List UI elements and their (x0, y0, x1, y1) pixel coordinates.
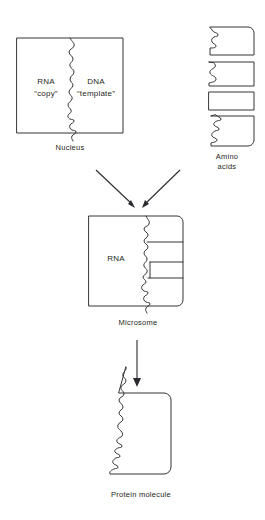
microsome-rna-label: RNA (98, 253, 134, 264)
nucleus-dna-sublabel: “template” (70, 88, 122, 99)
arrow-microsome-to-protein-head (133, 378, 141, 387)
amino-acid-1 (210, 27, 254, 55)
amino-acids-group (209, 27, 254, 146)
microsome-group (89, 216, 183, 313)
arrow-to-protein-group (133, 340, 141, 387)
arrow-amino-to-microsome (144, 170, 180, 205)
protein-group (110, 367, 171, 474)
nucleus-rna-sublabel: “copy” (24, 88, 68, 99)
protein-synthesis-diagram: RNA “copy” DNA “template” Nucleus Amino … (0, 0, 265, 520)
amino-acid-2 (209, 62, 254, 86)
protein-caption: Protein molecule (95, 490, 187, 500)
amino-acids-caption-line2: acids (200, 162, 254, 172)
microsome-caption: Microsome (100, 318, 176, 328)
nucleus-caption: Nucleus (35, 143, 105, 153)
arrow-nucleus-to-microsome (96, 170, 133, 205)
amino-acid-4 (211, 115, 254, 146)
nucleus-rna-label: RNA (24, 76, 68, 87)
protein-molecule-shape (110, 367, 171, 474)
arrows-to-microsome (96, 170, 180, 208)
amino-acids-caption-line1: Amino (200, 152, 254, 162)
amino-acid-3 (209, 92, 254, 110)
nucleus-dna-label: DNA (74, 76, 118, 87)
